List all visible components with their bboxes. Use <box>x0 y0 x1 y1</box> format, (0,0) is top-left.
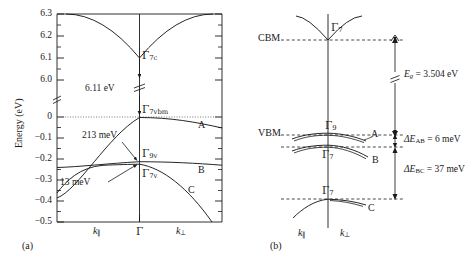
panel-b-xtick-kpar: k∥ <box>298 228 306 239</box>
panel-a-label-gamma-7c: Γ7c <box>142 50 157 62</box>
panel-a-label-gamma-7vbm: Γ7vbm <box>142 104 168 116</box>
panel-b-dbc-annotation: ΔEBC = 37 meV <box>404 165 465 175</box>
dab-value: = 6 meV <box>427 134 460 144</box>
panel-b-label-gamma-7c: Γ7 <box>331 22 343 34</box>
panel-b-label-gamma-7-b: Γ7 <box>322 149 334 161</box>
panel-a-ytick-0: 0 <box>24 112 52 122</box>
panel-a-ytick--0.5: −0.5 <box>22 217 52 227</box>
panel-a-ytick-6.2: 6.2 <box>24 31 52 41</box>
panel-b-band-C <box>293 199 366 218</box>
panel-a-band-label-B: B <box>198 165 205 175</box>
panel-a-xtick-kperp: k⊥ <box>176 226 186 237</box>
panel-a-gap-annotation: 6.11 eV <box>85 84 115 94</box>
panel-b-label-gamma-9: Γ9 <box>325 120 337 132</box>
k-subscript: ⊥ <box>344 231 350 238</box>
gamma-subscript: 7 <box>329 153 333 161</box>
panel-a-ytick--0.2: −0.2 <box>22 154 52 164</box>
panel-b-band-label-A: A <box>371 129 378 139</box>
gamma-subscript: 7 <box>329 189 333 197</box>
panel-a-xtick-kpar: k∥ <box>93 226 101 237</box>
k-subscript: ∥ <box>302 231 306 238</box>
gamma-subscript: 7vbm <box>149 108 168 116</box>
panel-a-ytick-6.1: 6.1 <box>24 53 52 63</box>
gamma-subscript: 7v <box>149 172 157 180</box>
gamma-subscript: 7c <box>149 54 157 62</box>
panel-b-vbm-label: VBM <box>258 128 281 138</box>
panel-a-caption-label: (a) <box>22 241 33 251</box>
panel-a-split-13: 13 meV <box>60 178 90 188</box>
gamma-subscript: 7 <box>338 26 342 34</box>
panel-a-ytick--0.4: −0.4 <box>22 196 52 206</box>
panel-a-label-gamma-7v: Γ7v <box>142 168 157 180</box>
panel-a-band-label-A: A <box>198 120 205 130</box>
dbc-subscript: BC <box>415 167 424 174</box>
panel-b-band-label-C: C <box>368 203 375 213</box>
k-subscript: ⊥ <box>180 229 186 236</box>
panel-a-split-213: 213 meV <box>82 131 117 141</box>
panel-b-band-C-inner <box>330 201 363 207</box>
gamma-subscript: 9 <box>332 124 336 132</box>
panel-a-ytick--0.1: −0.1 <box>22 133 52 143</box>
panel-b-cbm-label: CBM <box>258 33 280 43</box>
panel-a-label-gamma-9v: Γ9v <box>142 148 157 160</box>
dab-symbol: ΔE <box>404 134 415 144</box>
dab-subscript: AB <box>415 137 424 144</box>
panel-b-dab-annotation: ΔEAB = 6 meV <box>404 135 461 145</box>
panel-b-eg-arrow <box>391 35 400 134</box>
eg-subscript: g <box>410 72 413 79</box>
panel-b-caption-label: (b) <box>270 241 282 251</box>
panel-a-xtick-gamma: Γ <box>136 226 143 237</box>
panel-a-ytick-6.0: 6.0 <box>24 75 52 85</box>
panel-a-ytick-6.3: 6.3 <box>24 9 52 19</box>
panel-a-arrow-213 <box>122 142 137 161</box>
panel-b-conduction-band <box>296 16 362 40</box>
k-subscript: ∥ <box>97 229 101 236</box>
eg-value: = 3.504 eV <box>416 69 459 79</box>
panel-a-arrow-13 <box>108 165 137 183</box>
dbc-symbol: ΔE <box>404 164 415 174</box>
panel-b-band-label-B: B <box>372 155 379 165</box>
panel-b-xtick-kperp: k⊥ <box>340 228 350 239</box>
dbc-value: = 37 meV <box>427 164 465 174</box>
panel-b-label-gamma-7-c: Γ7 <box>322 185 334 197</box>
gamma-subscript: 9v <box>149 152 157 160</box>
panel-a-ytick--0.3: −0.3 <box>22 175 52 185</box>
panel-a-band-label-C: C <box>188 185 195 195</box>
panel-b-eg-annotation: Eg = 3.504 eV <box>404 70 458 80</box>
